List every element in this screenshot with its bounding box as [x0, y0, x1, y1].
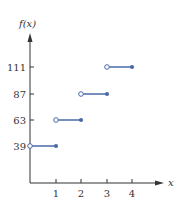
open-dot-icon: [28, 144, 33, 149]
step-function-chart: f(x) x 1 2 3 4 111 87 63 39: [0, 0, 184, 208]
x-tick-label-4: 4: [129, 188, 135, 199]
step-segment-3: [79, 92, 109, 97]
y-axis-label: f(x): [18, 18, 36, 29]
y-tick-label-111: 111: [7, 62, 26, 73]
y-tick-label-63: 63: [13, 115, 26, 126]
step-segment-1: [28, 144, 58, 149]
open-dot-icon: [105, 65, 110, 70]
open-dot-icon: [54, 118, 59, 123]
y-tick-label-87: 87: [13, 89, 26, 100]
closed-dot-icon: [79, 118, 83, 122]
y-axis-arrow-icon: [28, 33, 33, 42]
x-tick-label-1: 1: [53, 188, 59, 199]
x-tick-label-2: 2: [78, 188, 84, 199]
closed-dot-icon: [105, 92, 109, 96]
x-tick-label-3: 3: [104, 188, 110, 199]
y-ticks: [30, 67, 34, 120]
x-ticks: [56, 179, 132, 183]
x-axis-label: x: [168, 177, 174, 188]
y-tick-label-39: 39: [13, 141, 26, 152]
open-dot-icon: [79, 92, 84, 97]
step-segment-4: [105, 65, 134, 70]
step-segment-2: [54, 118, 83, 123]
closed-dot-icon: [130, 65, 134, 69]
closed-dot-icon: [54, 144, 58, 148]
x-axis-arrow-icon: [155, 181, 164, 186]
